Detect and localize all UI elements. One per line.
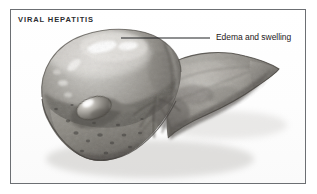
figure-root: VIRAL HEPATITIS Edema and swelling xyxy=(0,0,317,194)
plate-title: VIRAL HEPATITIS xyxy=(18,16,94,24)
edema-annotation-label: Edema and swelling xyxy=(216,33,291,42)
